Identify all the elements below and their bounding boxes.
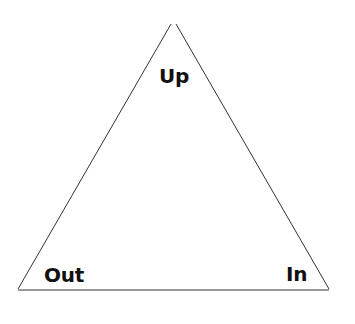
vertex-label-up: Up [159,66,189,86]
vertex-label-out: Out [44,265,84,285]
left-edge [18,24,171,289]
triangle-diagram: Up Out In [0,0,355,324]
vertex-label-in: In [286,264,307,284]
right-edge [176,24,329,289]
